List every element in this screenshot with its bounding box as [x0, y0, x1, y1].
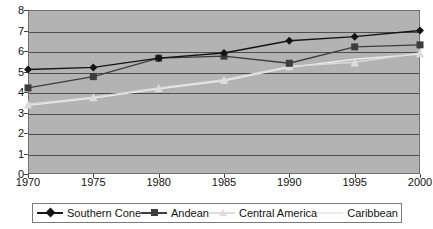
series-southern-cone	[24, 27, 424, 74]
data-point-marker	[90, 73, 97, 80]
legend-marker-square-icon	[151, 209, 158, 216]
legend-entry: Andean	[141, 207, 209, 219]
x-axis-tick-label: 1985	[212, 177, 236, 188]
legend-swatch-square-icon	[141, 208, 167, 218]
legend-label: Southern Cone	[67, 207, 141, 219]
data-point-marker	[286, 60, 293, 67]
legend-label: Andean	[171, 207, 209, 219]
x-axis-tick-label: 2000	[408, 177, 432, 188]
data-point-marker	[416, 27, 424, 35]
x-axis-tick-label: 1995	[342, 177, 366, 188]
series-layer	[28, 10, 420, 174]
legend-entry: Caribbean	[317, 207, 398, 219]
data-point-marker	[417, 41, 424, 48]
data-point-marker	[285, 37, 293, 45]
legend-line	[317, 212, 343, 214]
data-point-marker	[25, 84, 32, 91]
legend-swatch-triangle-icon	[209, 208, 235, 218]
legend-marker-triangle-icon	[219, 209, 227, 216]
legend: Southern ConeAndeanCentral AmericaCaribb…	[32, 203, 402, 223]
legend-swatch-diamond-icon	[37, 208, 63, 218]
data-point-marker	[351, 43, 358, 50]
legend-label: Central America	[239, 207, 317, 219]
x-axis-tick-label: 1975	[81, 177, 105, 188]
legend-marker-diamond-icon	[46, 208, 56, 218]
y-axis-labels: 012345678	[0, 0, 24, 229]
legend-swatch-none-icon	[317, 208, 343, 218]
legend-label: Caribbean	[347, 207, 398, 219]
x-axis-labels: 1970197519801985199019952000	[0, 177, 433, 193]
x-axis-tick-label: 1970	[16, 177, 40, 188]
legend-entry: Central America	[209, 207, 317, 219]
x-axis-tick-label: 1990	[277, 177, 301, 188]
x-axis-tick-label: 1980	[146, 177, 170, 188]
line-chart: 012345678 1970197519801985199019952000 S…	[0, 0, 433, 229]
legend-entry: Southern Cone	[37, 207, 141, 219]
data-point-marker	[89, 63, 97, 71]
data-point-marker	[351, 33, 359, 41]
